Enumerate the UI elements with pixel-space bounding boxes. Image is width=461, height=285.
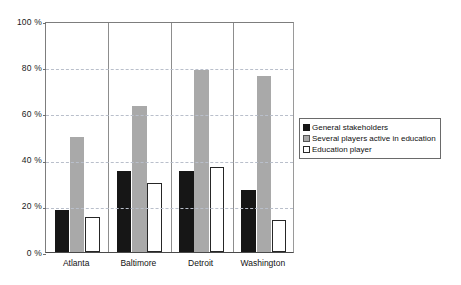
gridline xyxy=(46,69,293,70)
bar xyxy=(272,220,287,252)
y-axis-tick-label: 0 % xyxy=(2,249,42,258)
y-axis-tick xyxy=(43,23,46,24)
y-axis-labels: 0 %20 %40 %60 %80 %100 % xyxy=(0,0,42,285)
y-axis-tick-label: 100 % xyxy=(2,18,42,27)
x-axis-category-label: Washington xyxy=(232,258,294,269)
legend-swatch-icon xyxy=(303,124,310,131)
bar xyxy=(210,167,225,252)
legend-item-label: Education player xyxy=(312,145,372,155)
y-axis-tick xyxy=(43,162,46,163)
legend-swatch-icon xyxy=(303,135,310,142)
plot-area xyxy=(45,22,294,253)
bar xyxy=(85,217,100,252)
y-axis-tick xyxy=(43,115,46,116)
bar xyxy=(55,210,70,252)
y-axis-tick-label: 20 % xyxy=(2,202,42,211)
bar xyxy=(132,106,147,252)
bar-group xyxy=(46,23,108,252)
x-axis-labels: AtlantaBaltimoreDetroitWashington xyxy=(45,258,294,274)
x-axis-category-label: Atlanta xyxy=(45,258,107,269)
gridline xyxy=(46,162,293,163)
legend-item-label: General stakeholders xyxy=(312,123,388,133)
y-axis-tick xyxy=(43,208,46,209)
legend-item-label: Several players active in education xyxy=(312,134,436,144)
legend-item[interactable]: Several players active in education xyxy=(303,133,436,144)
y-axis-tick xyxy=(43,69,46,70)
bar-groups xyxy=(46,23,293,252)
y-axis-tick-label: 40 % xyxy=(2,156,42,165)
y-axis-tick-label: 80 % xyxy=(2,64,42,73)
bar xyxy=(179,171,194,252)
bar xyxy=(117,171,132,252)
group-separator xyxy=(171,23,172,252)
gridline xyxy=(46,115,293,116)
gridline xyxy=(46,208,293,209)
bar-group xyxy=(233,23,295,252)
bar xyxy=(257,76,272,252)
group-separator xyxy=(108,23,109,252)
bar xyxy=(70,137,85,253)
y-axis-tick xyxy=(43,254,46,255)
x-axis-category-label: Baltimore xyxy=(107,258,169,269)
legend-item[interactable]: Education player xyxy=(303,144,436,155)
group-separator xyxy=(233,23,234,252)
y-axis-tick-label: 60 % xyxy=(2,110,42,119)
x-axis-category-label: Detroit xyxy=(170,258,232,269)
bar-group xyxy=(171,23,233,252)
legend-item[interactable]: General stakeholders xyxy=(303,122,436,133)
bar-chart: 0 %20 %40 %60 %80 %100 % AtlantaBaltimor… xyxy=(0,0,461,285)
bar-group xyxy=(108,23,170,252)
legend-swatch-icon xyxy=(303,146,310,153)
chart-legend: General stakeholdersSeveral players acti… xyxy=(299,118,441,159)
bar xyxy=(241,190,256,252)
bar xyxy=(147,183,162,252)
